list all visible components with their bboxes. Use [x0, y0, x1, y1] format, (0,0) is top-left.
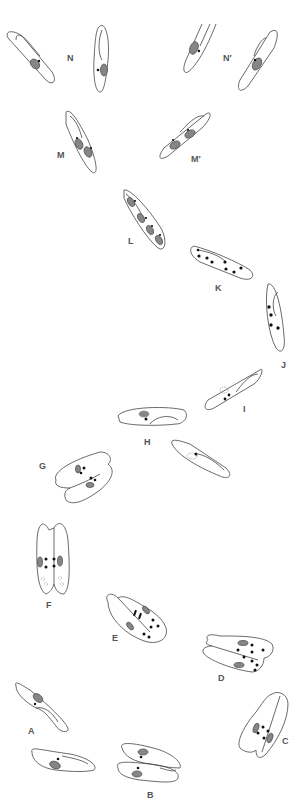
label-m-prime: M′ [191, 154, 201, 164]
label-c: C [282, 736, 289, 746]
cell-j [266, 284, 284, 351]
cell-g [55, 452, 112, 503]
cell-i [205, 369, 262, 409]
cell-k [191, 246, 253, 279]
diagram-canvas [0, 0, 308, 812]
cell-f [37, 524, 69, 594]
cell-c [239, 692, 288, 757]
label-g: G [39, 461, 46, 471]
cell-h-1 [118, 408, 186, 426]
label-h: H [144, 437, 151, 447]
label-f: F [46, 600, 52, 610]
label-b: B [147, 790, 154, 800]
cell-n-1 [7, 32, 54, 83]
label-l: L [128, 236, 134, 246]
label-j: J [281, 360, 286, 370]
label-m: M [57, 150, 65, 160]
label-d: D [218, 673, 225, 683]
cell-a-2 [32, 749, 95, 772]
label-n: N [67, 53, 74, 63]
cell-n-prime-1 [184, 24, 216, 73]
label-e: E [112, 633, 118, 643]
label-n-prime: N′ [223, 53, 232, 63]
label-k: K [215, 283, 222, 293]
cell-a-1 [16, 683, 69, 732]
label-i: I [243, 404, 246, 414]
cell-n-2 [94, 25, 109, 92]
cell-b [117, 744, 180, 782]
cell-m-prime [160, 113, 210, 158]
cell-n-prime-2 [238, 30, 277, 90]
cell-m [66, 111, 96, 173]
label-a: A [28, 726, 35, 736]
cell-d [203, 635, 273, 672]
cell-h-2 [172, 440, 230, 477]
